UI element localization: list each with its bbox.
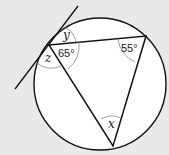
label-x: x xyxy=(108,117,115,131)
label-z: z xyxy=(44,51,52,65)
label-65: 65° xyxy=(58,47,75,59)
circle-theorem-diagram: y 65° z 55° x xyxy=(0,0,169,155)
label-55: 55° xyxy=(121,42,138,54)
label-y: y xyxy=(62,28,70,42)
